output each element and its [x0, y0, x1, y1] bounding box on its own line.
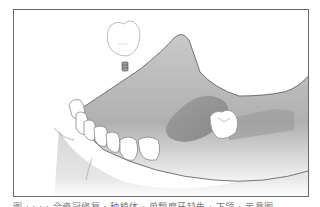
- figure-caption: 图 · · · · 全瓷冠修复 · 种植体 · 单颗磨牙缺失 · 下颌 · 示意…: [13, 201, 313, 207]
- crown-icon: [107, 21, 140, 56]
- molar-icon: [210, 110, 238, 138]
- figure-frame: [13, 9, 309, 197]
- implant-icon: [122, 62, 128, 71]
- dental-illustration: [14, 10, 309, 197]
